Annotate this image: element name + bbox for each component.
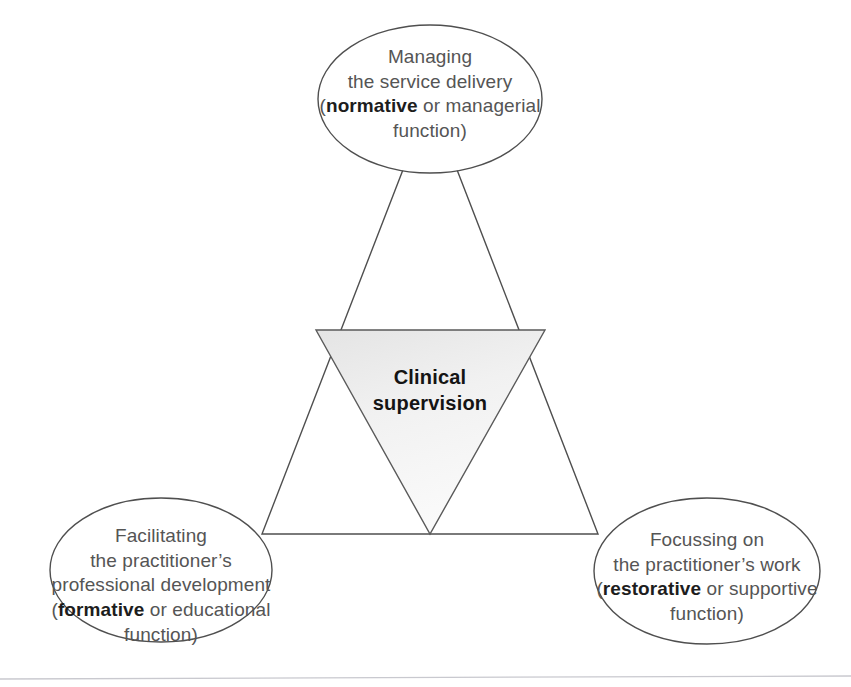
node-ellipse-managing[interactable] xyxy=(318,25,542,173)
inner-triangle-clinical-supervision xyxy=(316,330,545,534)
node-ellipse-focussing[interactable] xyxy=(594,498,820,644)
node-ellipse-facilitating[interactable] xyxy=(50,498,272,642)
page-rule xyxy=(0,676,851,679)
diagram-canvas xyxy=(0,0,851,687)
